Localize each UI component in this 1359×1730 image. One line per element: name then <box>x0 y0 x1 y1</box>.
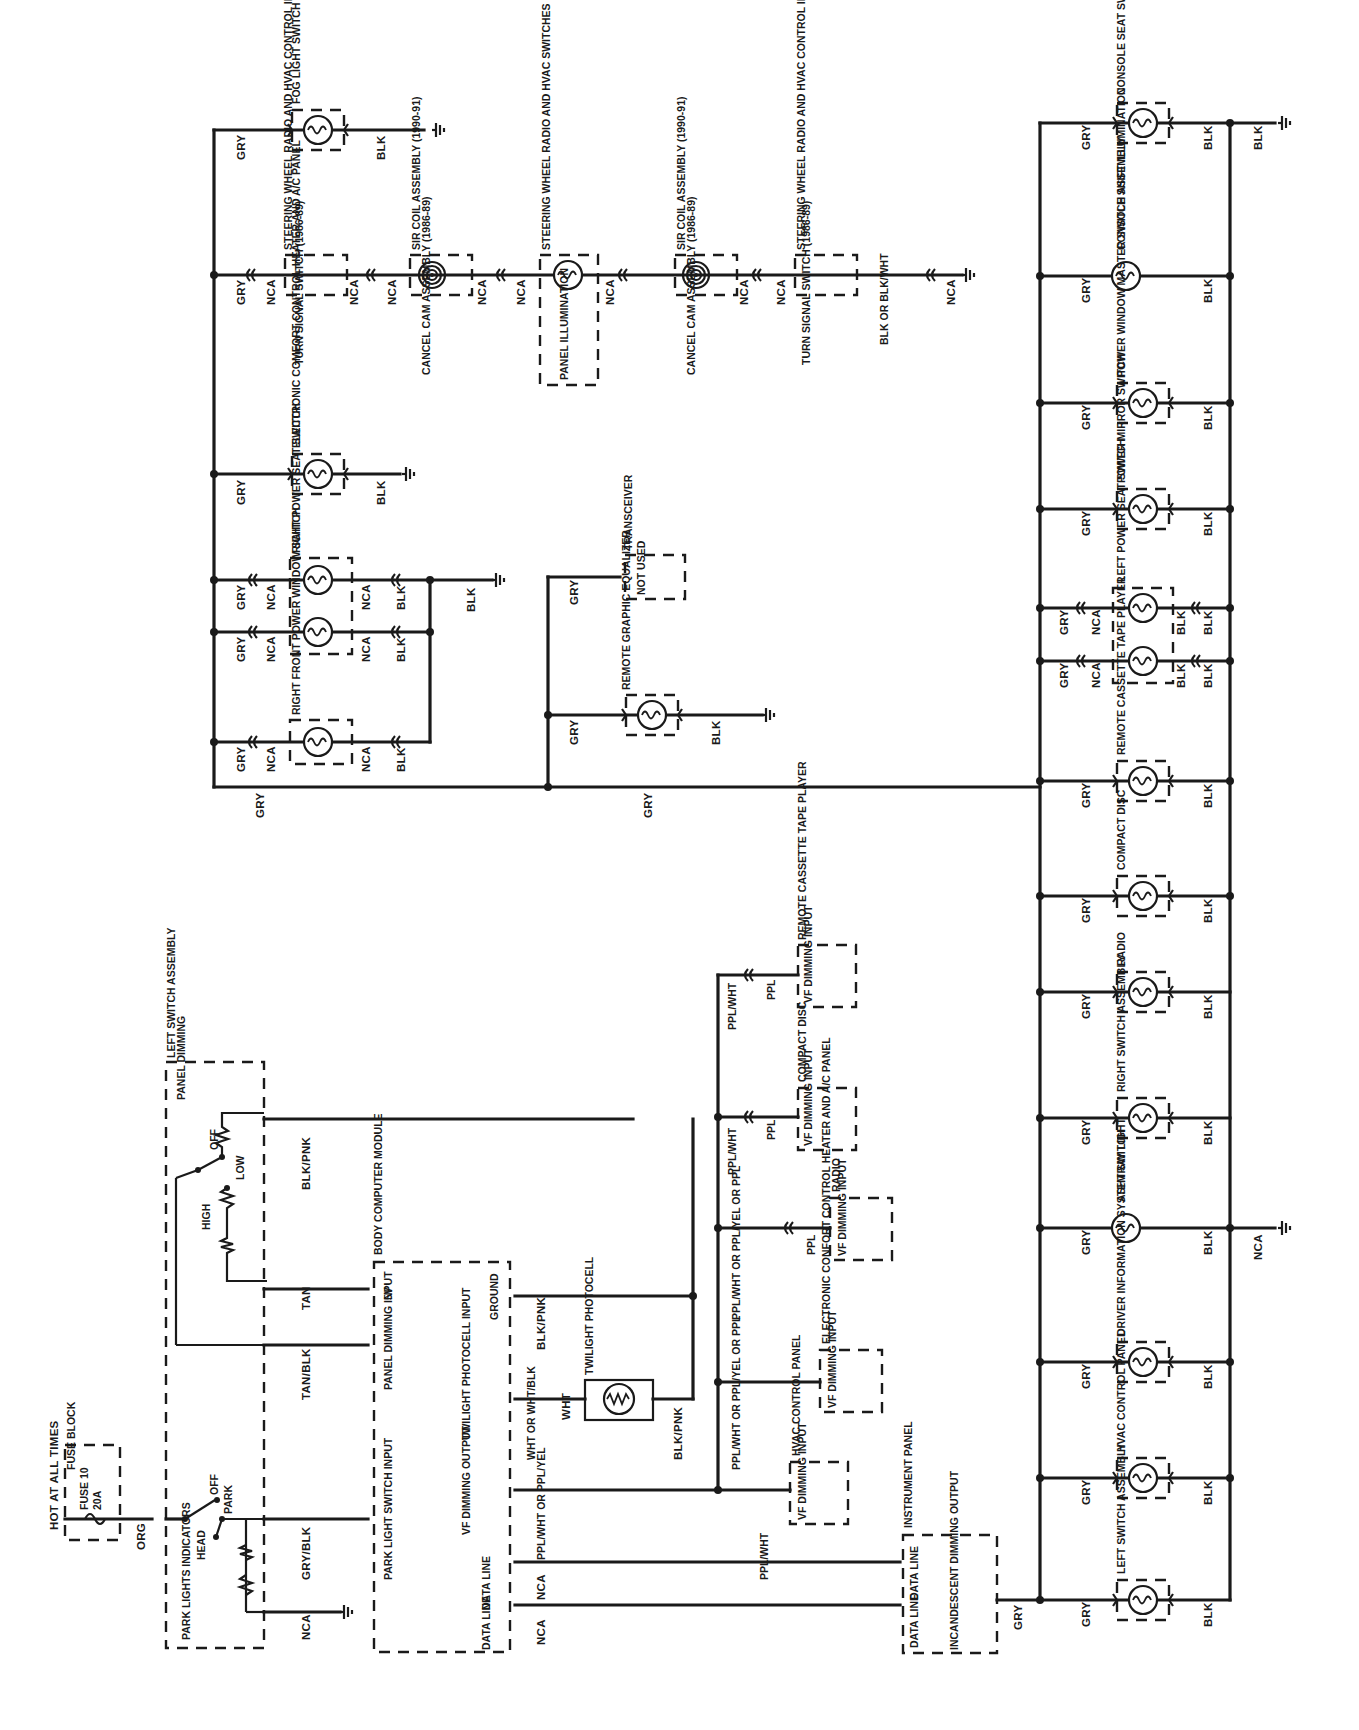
body-computer-module: BODY COMPUTER MODULE 5V PANEL DIMMING IN… <box>372 1113 510 1652</box>
lamp-in-wire: GRY <box>1058 663 1070 688</box>
bcm-pin-data-line-2: DATA LINE <box>480 1596 492 1650</box>
lamp-in-wire: GRY <box>1058 610 1070 635</box>
bcm-pin-ground: GROUND <box>488 1273 500 1320</box>
ip-data-line-1: DATA LINE <box>908 1546 920 1600</box>
chain-4-alt: STEERING WHEEL RADIO AND HVAC CONTROL IN… <box>795 0 807 250</box>
rfw-wire-3: BLK <box>395 747 407 772</box>
lamp-label: CONSOLE SEAT SWITCH <box>1115 0 1127 95</box>
chain-2-alt: STEERING WHEEL RADIO AND HVAC SWITCHES <box>540 3 552 250</box>
vf-hvac-feed: PPL/WHT <box>758 1532 770 1580</box>
lamp-label: LEFT SWITCH ASSEMBLY <box>1115 1444 1127 1574</box>
lamp-out-wire: BLK <box>1202 278 1214 303</box>
dim-pos-off: OFF <box>208 1128 220 1150</box>
lamp-in-wire: GRY <box>1080 1120 1092 1145</box>
twilight-photocell-label: TWILIGHT PHOTOCELL <box>583 1256 595 1375</box>
lamp-out-wire: BLK <box>1202 1480 1214 1505</box>
lamp-label: HVAC CONTROL PANEL <box>1115 1330 1127 1452</box>
lamp-label: REMOTE CASSETTE TAPE PLAYER <box>1115 576 1127 755</box>
rge-in-wire: GRY <box>568 720 580 745</box>
lamp-return-wire: BLK <box>1202 663 1214 688</box>
tan-blk-wire-label: TAN/BLK <box>300 1348 312 1400</box>
chain-2-label: PANEL ILLUMINATION <box>558 268 570 380</box>
data-line-1-wire: NCA <box>535 1574 547 1600</box>
vf-dimming-bus: VF DIMMING INPUT REMOTE CASSETTE TAPE PL… <box>714 761 892 1580</box>
chain-wire-1: NCA <box>265 279 277 305</box>
lamp-out-wire: BLK <box>1202 898 1214 923</box>
ground-wire-label: BLK/PNK <box>535 1296 547 1350</box>
lamp-in-wire: GRY <box>1080 278 1092 303</box>
lamp-out-wire: BLK <box>1202 511 1214 536</box>
fuse-block: HOT AT ALL TIMES FUSE BLOCK FUSE 10 20A … <box>48 1401 152 1550</box>
dim-pos-high: HIGH <box>200 1204 212 1230</box>
rps2-wire-2: NCA <box>360 636 372 662</box>
rge-label: REMOTE GRAPHIC EQUALIZER <box>620 530 632 690</box>
rfw-wire-2: NCA <box>360 746 372 772</box>
bcm-pin-park-light: PARK LIGHT SWITCH INPUT <box>382 1437 394 1580</box>
chain-wire-0: GRY <box>235 280 247 305</box>
lamp-return-wire: BLK <box>1202 610 1214 635</box>
dim-pos-low: LOW <box>234 1155 246 1180</box>
rps2-wire-1: NCA <box>265 636 277 662</box>
vf-cd-wire: PPL <box>765 1119 777 1140</box>
data-line-2-wire: NCA <box>535 1619 547 1645</box>
upper-bus-wire-1: GRY <box>254 793 266 818</box>
vf-ecc-feed: PPL/WHT OR PPL/YEL OR PPL <box>730 1315 742 1470</box>
chain-wire-5: NCA <box>515 279 527 305</box>
lamp-in-wire: GRY <box>1080 125 1092 150</box>
lamp-label: DRIVER INFORMATION SYSTEM SWITCH <box>1115 1130 1127 1336</box>
lamp-out-wire: BLK <box>1202 1120 1214 1145</box>
bcm-title: BODY COMPUTER MODULE <box>372 1113 384 1255</box>
right-lamp-4-5: LEFT POWER SEAT SWITCH GRY NCA BLK BLK G… <box>1036 439 1234 688</box>
ip-incandescent-output: INCANDESCENT DIMMING OUTPUT <box>948 1470 960 1650</box>
switch-pos-off: OFF <box>208 1473 220 1495</box>
lamp-label: POWER WINDOW MASTER SWITCH ASSEMBLY <box>1115 137 1127 377</box>
rps-ground-wire: BLK <box>465 587 477 612</box>
fuse-rating: 20A <box>91 1490 103 1510</box>
lamp-out-wire: BLK <box>1202 783 1214 808</box>
instrument-panel-title: INSTRUMENT PANEL <box>902 1421 914 1528</box>
vf-radio-feed: PPL/WHT OR PPL/YEL OR PPL <box>730 1165 742 1320</box>
right-lamp-11: DRIVER INFORMATION SYSTEM SWITCH GRY BLK <box>1036 1130 1234 1389</box>
lamp-in-wire: GRY <box>1080 783 1092 808</box>
rps-wire-0: GRY <box>235 585 247 610</box>
chain-wire-8: NCA <box>775 279 787 305</box>
twilight-wire-label: WHT OR WHT/BLK <box>525 1366 537 1460</box>
lamp-in-wire: GRY <box>1080 1480 1092 1505</box>
lamp-out-wire: BLK <box>1175 663 1187 688</box>
lamp-out-wire: BLK <box>1202 1602 1214 1627</box>
chain-wire-7: NCA <box>738 279 750 305</box>
fuse-block-label: FUSE BLOCK <box>65 1401 77 1470</box>
vf-radio-wire: PPL <box>805 1234 817 1255</box>
switch-pos-park: PARK <box>222 1485 234 1514</box>
rps-wire-1: NCA <box>265 584 277 610</box>
chain-wire-2: NCA <box>348 279 360 305</box>
left-switch-assembly: LEFT SWITCH ASSEMBLY OFF PARK HEAD PARK … <box>165 928 267 1648</box>
tan-wire-label: TAN <box>300 1286 312 1310</box>
fog-in-wire: GRY <box>235 135 247 160</box>
lamp-out-wire: BLK <box>1202 1364 1214 1389</box>
lamp-out-wire: BLK <box>1202 994 1214 1019</box>
lamp-out-wire: BLK <box>1202 1230 1214 1255</box>
fuse-label: FUSE 10 <box>78 1467 90 1510</box>
vf-cd-label: COMPACT DISC <box>796 1001 808 1082</box>
vf-hvac-label: HVAC CONTROL PANEL <box>790 1334 802 1456</box>
org-wire-label: ORG <box>135 1523 147 1550</box>
rps-wire-2: NCA <box>360 584 372 610</box>
park-lights-indicators-label: PARK LIGHTS INDICATORS <box>180 1502 192 1640</box>
gry-blk-wire-label: GRY/BLK <box>300 1526 312 1580</box>
transceiver-status: NOT USED <box>635 540 647 595</box>
lamp-in-wire: GRY <box>1080 1230 1092 1255</box>
right-bus-nca-ground: NCA <box>1252 1234 1264 1260</box>
photocell-out-wire-label: BLK/PNK <box>672 1406 684 1460</box>
lamp-in-wire: GRY <box>1080 511 1092 536</box>
lamp-in-wire: GRY <box>1080 1364 1092 1389</box>
blk-pnk-wire-label: BLK/PNK <box>300 1136 312 1190</box>
lamp-in-wire: GRY <box>1080 1602 1092 1627</box>
vf-ecc-label: ELECTRONIC CONFORT CONTROL HEATER AND A/… <box>820 1037 832 1344</box>
bcm-pin-twilight: TWILIGHT PHOTOCELL INPUT <box>460 1287 472 1440</box>
nca-wire-label: NCA <box>300 1614 312 1640</box>
right-lamp-0: CONSOLE SEAT SWITCH GRY BLK <box>1040 0 1230 150</box>
chain-wire-9: BLK OR BLK/WHT <box>878 253 890 345</box>
vf-cassette-feed: PPL/WHT <box>726 982 738 1030</box>
lamp-nca-wire: NCA <box>1090 662 1102 688</box>
